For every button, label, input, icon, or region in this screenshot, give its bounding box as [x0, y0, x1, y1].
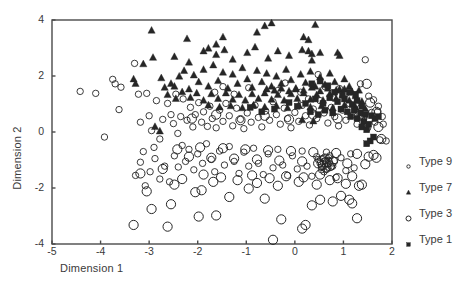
- data-point: [371, 134, 377, 140]
- data-point: [140, 60, 147, 67]
- data-point: [166, 200, 175, 209]
- data-point: [200, 109, 206, 115]
- data-point: [213, 51, 220, 58]
- data-point: [101, 134, 107, 140]
- data-point: [285, 52, 292, 59]
- data-point: [196, 143, 205, 152]
- data-point: [184, 152, 193, 161]
- data-point: [149, 54, 156, 61]
- legend-item-type-9[interactable]: Type 9: [404, 148, 472, 174]
- data-point: [300, 86, 307, 93]
- data-point: [343, 159, 352, 168]
- data-point: [244, 49, 251, 56]
- data-point: [77, 88, 83, 94]
- data-point: [273, 181, 282, 190]
- data-point: [331, 78, 338, 85]
- data-point: [285, 87, 292, 94]
- data-point: [316, 195, 325, 204]
- data-point: [242, 97, 249, 104]
- data-point: [303, 100, 309, 106]
- data-point: [158, 74, 165, 81]
- data-point: [343, 167, 349, 173]
- data-point: [253, 67, 260, 74]
- data-point: [185, 58, 192, 65]
- filled-triangle-icon: [404, 183, 413, 192]
- data-point: [260, 194, 269, 203]
- data-point: [320, 100, 326, 106]
- data-point: [241, 125, 247, 131]
- data-point: [253, 28, 260, 35]
- y-tick-label: 0: [26, 125, 44, 137]
- data-point: [135, 91, 141, 97]
- data-point: [309, 81, 315, 87]
- data-point: [131, 60, 137, 66]
- legend-item-label: Type 9: [419, 155, 452, 167]
- data-point: [366, 121, 372, 127]
- data-point: [273, 72, 280, 79]
- data-point: [225, 192, 234, 201]
- data-point: [239, 64, 246, 71]
- data-point: [168, 111, 174, 117]
- data-point: [185, 85, 192, 92]
- data-point: [171, 53, 178, 60]
- data-point: [216, 103, 223, 110]
- data-point: [312, 96, 318, 102]
- data-point: [292, 109, 298, 115]
- data-point: [327, 95, 333, 101]
- data-point: [286, 100, 292, 106]
- data-point: [357, 180, 366, 189]
- x-tick-label: 1: [333, 245, 353, 257]
- data-point: [147, 169, 153, 175]
- y-axis-title: Dimension 2: [11, 113, 23, 203]
- data-point: [252, 155, 261, 164]
- data-point: [250, 145, 256, 151]
- y-tick-label: 2: [26, 69, 44, 81]
- data-point: [332, 148, 341, 157]
- data-point: [190, 71, 197, 78]
- data-point: [213, 125, 219, 131]
- data-point: [212, 169, 218, 175]
- scatter-plot-figure: Dimension 1 Dimension 2 -5-4-3-2-1012-4-…: [0, 0, 473, 292]
- data-point: [148, 27, 155, 34]
- data-point: [187, 104, 193, 110]
- data-point: [247, 104, 253, 110]
- data-point: [351, 107, 357, 113]
- data-point: [359, 103, 365, 109]
- data-point: [248, 119, 254, 125]
- data-point: [277, 215, 286, 224]
- y-tick-label: 4: [26, 13, 44, 25]
- data-point: [197, 186, 206, 195]
- data-point: [219, 33, 226, 40]
- data-point: [221, 46, 228, 53]
- data-point: [191, 188, 200, 197]
- data-point: [346, 89, 352, 95]
- data-point: [259, 109, 265, 115]
- data-point: [191, 167, 197, 173]
- data-point: [335, 123, 341, 129]
- data-point: [270, 165, 276, 171]
- data-point: [277, 121, 283, 127]
- data-point: [341, 179, 350, 188]
- data-point: [362, 112, 368, 118]
- x-tick-label: 0: [285, 245, 305, 257]
- data-point: [216, 173, 225, 182]
- data-point: [307, 68, 314, 75]
- data-point: [265, 174, 274, 183]
- x-tick-label: -2: [188, 245, 208, 257]
- data-point: [258, 78, 265, 85]
- data-point: [229, 96, 236, 103]
- data-point: [304, 163, 310, 169]
- data-point: [234, 80, 241, 87]
- legend-item-type-1[interactable]: Type 1: [404, 226, 472, 252]
- data-point: [229, 70, 236, 77]
- data-point: [299, 46, 306, 53]
- data-point: [275, 146, 281, 152]
- data-point: [146, 113, 152, 119]
- legend-item-type-7[interactable]: Type 7: [404, 174, 472, 200]
- data-point: [317, 78, 323, 84]
- legend-item-type-3[interactable]: Type 3: [404, 200, 472, 226]
- data-point: [175, 130, 181, 136]
- data-point: [118, 84, 124, 90]
- data-point: [263, 70, 270, 77]
- data-point: [93, 90, 99, 96]
